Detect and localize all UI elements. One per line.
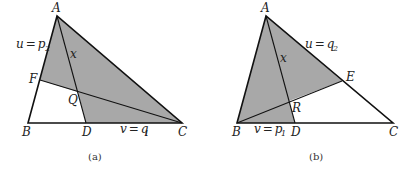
vertex-label-b: B [231, 125, 241, 139]
svg-text:1: 1 [144, 129, 149, 138]
panel-a: A B C D F Q u=p 2 x v=q 1 (a) [16, 1, 187, 162]
segment-label-ar: x [280, 51, 287, 65]
vertex-label-d: D [81, 125, 92, 139]
diagram-canvas: A B C D F Q u=p 2 x v=q 1 (a) A B C D E … [0, 0, 406, 171]
vertex-label-c: C [178, 125, 187, 139]
vertex-label-a: A [260, 1, 270, 15]
segment-label-af: u=p 2 [16, 37, 50, 53]
segment-label-aq: x [70, 47, 77, 61]
segment-label-ae: u=q 2 [305, 37, 338, 53]
segment-label-bd: v=p 1 [254, 122, 286, 138]
caption-b: (b) [309, 151, 323, 162]
vertex-label-a: A [51, 1, 61, 15]
svg-text:u=p: u=p [16, 37, 46, 51]
panel-b: A B C D E R u=q 2 x v=p 1 (b) [231, 1, 398, 162]
vertex-label-r: R [291, 101, 301, 115]
svg-text:2: 2 [44, 44, 50, 53]
vertex-label-b: B [21, 125, 31, 139]
shaded-region-b [237, 16, 342, 123]
vertex-label-c: C [389, 125, 398, 139]
segment-label-dc: v=q 1 [120, 122, 149, 138]
vertex-label-q: Q [68, 93, 78, 107]
svg-text:v=p: v=p [254, 122, 283, 136]
svg-text:1: 1 [281, 129, 286, 138]
vertex-label-d: D [290, 125, 301, 139]
vertex-label-f: F [28, 72, 38, 86]
svg-text:2: 2 [332, 44, 338, 53]
svg-text:u=q: u=q [305, 37, 335, 51]
caption-a: (a) [88, 151, 102, 162]
vertex-label-e: E [345, 70, 355, 84]
